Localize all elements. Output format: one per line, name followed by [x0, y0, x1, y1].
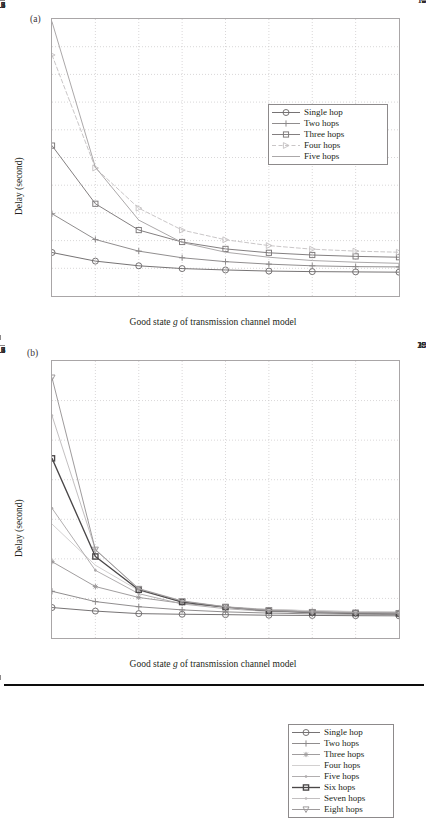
legend-item-two-hops[interactable]: Two hops	[271, 118, 384, 129]
chart-panel-a: (a) Delay (second) 12345678910110.10.20.…	[0, 0, 426, 340]
legend-label: Five hops	[301, 151, 339, 162]
legend-item-four-hops[interactable]: Four hops	[271, 140, 384, 151]
x-axis-title-suffix-a: of transmission channel model	[178, 317, 297, 327]
legend-swatch-icon	[271, 151, 301, 162]
y-tick-mark	[421, 0, 426, 1]
legend-swatch-icon	[291, 804, 321, 815]
legend-swatch-icon	[271, 118, 301, 129]
legend-label: Two hops	[301, 118, 339, 129]
legend-label: Three hops	[301, 129, 344, 140]
x-axis-title-suffix-b: of transmission channel model	[178, 659, 297, 669]
x-tick-mark	[0, 675, 1, 680]
legend-swatch-icon	[291, 738, 321, 749]
legend-swatch-icon	[271, 129, 301, 140]
legend-label: Three hops	[321, 749, 364, 760]
legend-label: Four hops	[301, 140, 340, 151]
legend-item-two-hops[interactable]: Two hops	[291, 738, 390, 749]
legend-label: Two hops	[321, 738, 359, 749]
legend-swatch-icon	[291, 782, 321, 793]
chart-canvas-b	[52, 361, 399, 638]
y-tick-mark	[421, 345, 426, 346]
footer-rule	[4, 684, 424, 686]
x-tick-mark	[0, 335, 1, 340]
legend-item-four-hops[interactable]: Four hops	[291, 760, 390, 771]
legend-label: Four hops	[321, 760, 360, 771]
x-axis-title-a: Good state g of transmission channel mod…	[0, 317, 426, 327]
plot-area-b	[51, 360, 400, 639]
panel-label-a: (a)	[30, 14, 41, 24]
x-tick-label: 0.9	[0, 0, 5, 10]
legend-label: Seven hops	[321, 793, 365, 804]
legend-label: Single hop	[301, 107, 343, 118]
legend-swatch-icon	[291, 749, 321, 760]
legend-label: Single hop	[321, 727, 363, 738]
legend-swatch-icon	[291, 771, 321, 782]
x-axis-title-prefix-a: Good state	[130, 317, 173, 327]
legend-swatch-icon	[291, 727, 321, 738]
legend-item-seven-hops[interactable]: Seven hops	[291, 793, 390, 804]
chart-legend-b[interactable]: Single hopTwo hopsThree hopsFour hopsFiv…	[288, 724, 394, 818]
legend-item-five-hops[interactable]: Five hops	[291, 771, 390, 782]
legend-item-five-hops[interactable]: Five hops	[271, 151, 384, 162]
y-axis-title-a: Delay (second)	[14, 157, 24, 215]
panel-label-b: (b)	[27, 348, 38, 358]
legend-swatch-icon	[271, 107, 301, 118]
y-axis-title-b: Delay (second)	[14, 499, 24, 557]
legend-swatch-icon	[291, 793, 321, 804]
legend-label: Eight hops	[321, 804, 363, 815]
legend-item-single-hop[interactable]: Single hop	[291, 727, 390, 738]
x-tick-label: 0.9	[0, 345, 5, 355]
legend-item-six-hops[interactable]: Six hops	[291, 782, 390, 793]
x-axis-title-b: Good state g of transmission channel mod…	[0, 659, 426, 669]
chart-legend-a[interactable]: Single hopTwo hopsThree hopsFour hopsFiv…	[268, 104, 388, 165]
chart-panel-b: (b) Delay (second) 051015202530350.10.20…	[0, 345, 426, 680]
legend-item-single-hop[interactable]: Single hop	[271, 107, 384, 118]
legend-swatch-icon	[271, 140, 301, 151]
legend-item-eight-hops[interactable]: Eight hops	[291, 804, 390, 815]
legend-item-three-hops[interactable]: Three hops	[291, 749, 390, 760]
legend-label: Six hops	[321, 782, 355, 793]
legend-label: Five hops	[321, 771, 359, 782]
legend-item-three-hops[interactable]: Three hops	[271, 129, 384, 140]
legend-swatch-icon	[291, 760, 321, 771]
x-axis-title-prefix-b: Good state	[130, 659, 173, 669]
